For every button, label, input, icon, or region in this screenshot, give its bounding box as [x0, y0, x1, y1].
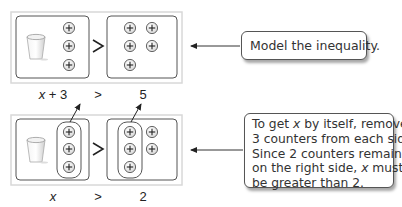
callout-explanation: To get x by itself, remove 3 counters fr… — [244, 113, 394, 188]
counter-icon — [63, 143, 74, 154]
bottom-model — [11, 104, 243, 185]
bottom-expression-right: 2 — [139, 189, 146, 204]
counter-icon — [63, 59, 74, 70]
top-expression-relation: > — [94, 87, 102, 102]
top-right-box — [107, 16, 177, 78]
top-model — [11, 12, 240, 83]
counter-icon — [63, 161, 74, 172]
callout-model-inequality: Model the inequality. — [241, 31, 367, 60]
counter-icon — [63, 126, 74, 137]
counter-icon — [124, 126, 135, 137]
bottom-expression-relation: > — [94, 189, 102, 204]
callout-line: 3 counters from each side. — [252, 132, 393, 147]
callout-line: Since 2 counters remain — [252, 147, 393, 162]
bottom-left-box — [16, 119, 89, 180]
top-expression-right: 5 — [139, 87, 146, 102]
top-left-box — [16, 16, 89, 78]
top-expression-left: x + 3 — [39, 87, 68, 102]
counter-icon — [63, 40, 74, 51]
counter-icon — [124, 40, 135, 51]
counter-icon — [146, 143, 157, 154]
counter-icon — [124, 59, 135, 70]
counter-icon — [146, 22, 157, 33]
counter-icon — [124, 22, 135, 33]
counter-icon — [146, 126, 157, 137]
counter-icon — [63, 22, 74, 33]
plus-three: + 3 — [45, 87, 67, 102]
counter-icon — [124, 161, 135, 172]
callout-line: on the right side, x must — [252, 161, 393, 176]
counter-icon — [146, 40, 157, 51]
callout-line: be greater than 2. — [252, 176, 393, 191]
callout-line: To get x by itself, remove — [252, 117, 393, 132]
counter-icon — [124, 143, 135, 154]
bottom-expression-left: x — [50, 189, 57, 204]
